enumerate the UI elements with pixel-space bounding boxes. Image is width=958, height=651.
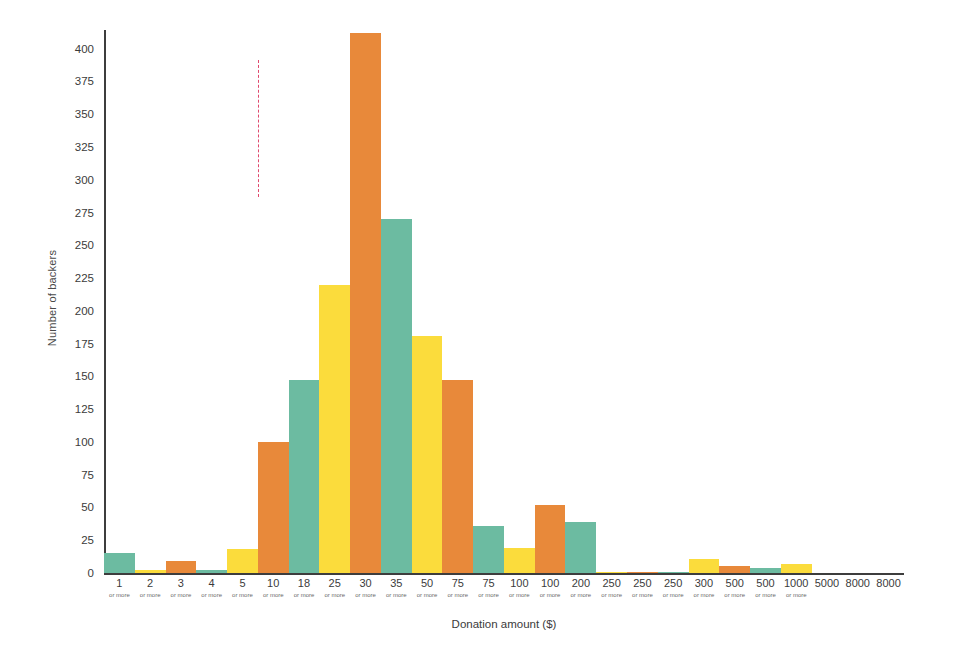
bar-slot <box>689 33 720 573</box>
bar[interactable] <box>289 380 320 573</box>
bar-slot <box>627 33 658 573</box>
bar[interactable] <box>350 33 381 573</box>
bar[interactable] <box>596 572 627 574</box>
x-axis-tick: 200or more <box>565 578 596 598</box>
x-axis-tick: 100or more <box>504 578 535 598</box>
y-axis-tick-label: 375 <box>75 75 94 87</box>
bar-slot <box>596 33 627 573</box>
bar[interactable] <box>504 548 535 573</box>
x-axis-tick-sublabel: or more <box>196 592 227 598</box>
x-axis-tick-sublabel: or more <box>750 592 781 598</box>
bar-slot <box>319 33 350 573</box>
bar-slot <box>104 33 135 573</box>
y-axis-tick-label: 275 <box>75 207 94 219</box>
x-axis-tick: 500or more <box>750 578 781 598</box>
x-axis-tick-value: 1 <box>104 578 135 590</box>
x-axis-tick-value: 2 <box>135 578 166 590</box>
x-axis-tick-sublabel: or more <box>719 592 750 598</box>
x-axis-tick: 35or more <box>381 578 412 598</box>
x-axis-tick: 2or more <box>135 578 166 598</box>
y-axis-tick-label: 50 <box>81 501 94 513</box>
y-axis-tick-label: 100 <box>75 436 94 448</box>
x-axis-tick-sublabel: or more <box>504 592 535 598</box>
x-axis-tick-sublabel: or more <box>381 592 412 598</box>
x-axis-tick: 300or more <box>689 578 720 598</box>
bar[interactable] <box>442 380 473 573</box>
bar[interactable] <box>750 568 781 573</box>
bar[interactable] <box>627 572 658 574</box>
bar-slot <box>166 33 197 573</box>
bar-slot <box>535 33 566 573</box>
bar[interactable] <box>135 570 166 573</box>
x-axis-tick-value: 5 <box>227 578 258 590</box>
bar[interactable] <box>658 572 689 574</box>
bar[interactable] <box>412 336 443 573</box>
x-axis-tick-sublabel: or more <box>442 592 473 598</box>
x-axis-tick-sublabel: or more <box>689 592 720 598</box>
x-axis-tick: 1or more <box>104 578 135 598</box>
x-axis-tick: 250or more <box>658 578 689 598</box>
x-axis-tick-value: 300 <box>689 578 720 590</box>
bar[interactable] <box>473 526 504 573</box>
x-axis-tick-sublabel: or more <box>596 592 627 598</box>
x-axis-tick: 100or more <box>535 578 566 598</box>
x-axis-tick: 25or more <box>319 578 350 598</box>
y-axis-tick-label: 175 <box>75 338 94 350</box>
x-axis-tick-value: 8000 <box>842 578 873 590</box>
bar-slot <box>750 33 781 573</box>
x-axis-tick-value: 50 <box>412 578 443 590</box>
x-axis-tick-value: 250 <box>627 578 658 590</box>
x-axis-title: Donation amount ($) <box>104 618 904 630</box>
bar[interactable] <box>258 442 289 573</box>
y-axis-tick-label: 300 <box>75 174 94 186</box>
bar[interactable] <box>381 219 412 573</box>
x-axis-tick-value: 30 <box>350 578 381 590</box>
bar-slot <box>842 33 873 573</box>
bar[interactable] <box>565 522 596 573</box>
bar-slot <box>442 33 473 573</box>
x-axis-ticks: 1or more2or more3or more4or more5or more… <box>104 578 904 598</box>
threshold-marker-line <box>258 60 259 197</box>
x-axis-tick-value: 4 <box>196 578 227 590</box>
bar-slot <box>196 33 227 573</box>
x-axis-tick-value: 18 <box>289 578 320 590</box>
x-axis-tick-sublabel: or more <box>627 592 658 598</box>
bar[interactable] <box>689 559 720 573</box>
x-axis-tick-value: 5000 <box>812 578 843 590</box>
y-axis-tick-label: 325 <box>75 141 94 153</box>
x-axis-tick: 250or more <box>627 578 658 598</box>
y-axis-tick-label: 150 <box>75 370 94 382</box>
x-axis-tick-sublabel: or more <box>289 592 320 598</box>
bar[interactable] <box>535 505 566 573</box>
x-axis-tick-value: 250 <box>658 578 689 590</box>
x-axis-tick-sublabel: or more <box>412 592 443 598</box>
x-axis-tick: 75or more <box>473 578 504 598</box>
x-axis-tick-sublabel: or more <box>104 592 135 598</box>
x-axis-tick-sublabel: or more <box>135 592 166 598</box>
x-axis-tick: 75or more <box>442 578 473 598</box>
x-axis-tick-value: 75 <box>473 578 504 590</box>
bar-slot <box>781 33 812 573</box>
y-axis-tick-label: 0 <box>88 567 94 579</box>
bar[interactable] <box>104 553 135 573</box>
x-axis-tick-value: 100 <box>504 578 535 590</box>
bar-slot <box>504 33 535 573</box>
bar-slot <box>135 33 166 573</box>
x-axis-tick: 1000or more <box>781 578 812 598</box>
x-axis-tick: 250or more <box>596 578 627 598</box>
x-axis-tick-value: 10 <box>258 578 289 590</box>
bar[interactable] <box>196 570 227 573</box>
x-axis-tick-value: 3 <box>166 578 197 590</box>
x-axis-tick-sublabel: or more <box>258 592 289 598</box>
bar[interactable] <box>319 285 350 573</box>
x-axis-tick-value: 100 <box>535 578 566 590</box>
bar[interactable] <box>781 564 812 573</box>
bar[interactable] <box>166 561 197 573</box>
bar[interactable] <box>719 566 750 573</box>
x-axis-tick: 18or more <box>289 578 320 598</box>
x-axis-tick-sublabel: or more <box>319 592 350 598</box>
bar-slot <box>873 33 904 573</box>
y-axis-tick-label: 25 <box>81 534 94 546</box>
bar[interactable] <box>227 549 258 573</box>
x-axis-tick-sublabel: or more <box>781 592 812 598</box>
